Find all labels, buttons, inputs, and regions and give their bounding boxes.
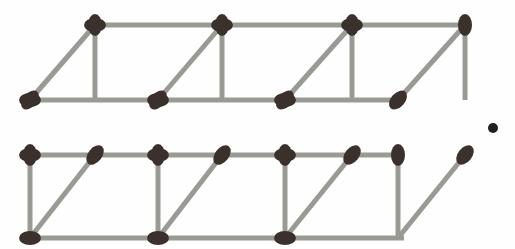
matchstick-head: [147, 231, 169, 245]
matchstick-head: [215, 14, 229, 36]
matchstick-head: [151, 144, 165, 166]
figure-background: [0, 0, 515, 249]
stray-dot-layer: [488, 123, 498, 133]
matchstick-head: [88, 14, 102, 36]
matchstick-head: [23, 144, 37, 166]
matchstick-head: [391, 144, 405, 166]
stray-dot: [488, 123, 498, 133]
matchstick-head: [274, 231, 296, 245]
matchstick-head: [458, 14, 472, 36]
matchstick-cubes-drawing: [0, 0, 515, 249]
matchstick-figure-canvas: [0, 0, 515, 249]
matchstick-head: [278, 144, 292, 166]
matchstick-head: [19, 231, 41, 245]
matchstick-head: [345, 14, 359, 36]
